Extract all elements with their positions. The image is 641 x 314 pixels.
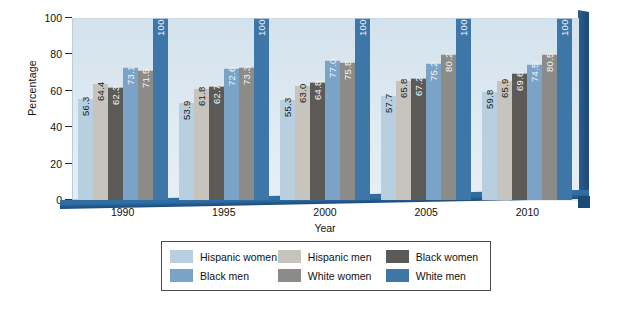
bar[interactable]: 56.3 (78, 98, 93, 200)
bar[interactable]: 80.5 (542, 54, 557, 201)
bar[interactable]: 65.8 (396, 80, 411, 200)
bar-fill (239, 67, 254, 200)
legend-item[interactable]: Hispanic women (170, 247, 278, 266)
bar-value-label: 80.2 (441, 57, 456, 72)
bar-fill (396, 80, 411, 200)
bar[interactable]: 100 (557, 18, 572, 200)
bar-value-label: 62.3 (108, 90, 123, 105)
x-axis-tick: 2000 (295, 206, 355, 218)
y-axis-tick: 100 (44, 12, 72, 24)
bar-value-label: 74.5 (527, 67, 542, 82)
legend-item[interactable]: Black men (170, 266, 278, 285)
bar-value-label: 72.6 (224, 71, 239, 86)
bar[interactable]: 57.7 (381, 95, 396, 200)
legend-swatch-icon (170, 269, 193, 282)
bar[interactable]: 77.0 (325, 60, 340, 200)
bar-value-label: 100 (557, 21, 572, 36)
bar[interactable]: 75.8 (340, 62, 355, 200)
bar-fill (426, 63, 441, 200)
bar[interactable]: 64.4 (93, 83, 108, 200)
bar-fill (340, 62, 355, 200)
bar[interactable]: 73.1 (123, 67, 138, 200)
bar[interactable]: 73.3 (239, 67, 254, 200)
bar-fill (527, 64, 542, 200)
bar[interactable]: 71.5 (138, 70, 153, 200)
bar[interactable]: 69.6 (512, 73, 527, 200)
bar-value-label: 64.4 (93, 86, 108, 101)
bar-group: 55.363.064.877.075.8100 (280, 18, 370, 200)
bar-value-label: 67.2 (411, 81, 426, 96)
bar-value-label: 100 (153, 21, 168, 36)
bar[interactable]: 80.2 (441, 54, 456, 200)
legend-label: Black women (416, 251, 478, 263)
bar-value-label: 59.8 (482, 94, 497, 109)
bar-value-label: 65.8 (396, 83, 411, 98)
bar[interactable]: 65.9 (497, 80, 512, 200)
legend-swatch-icon (170, 250, 193, 263)
bar-fill (557, 18, 572, 200)
x-axis-tick: 1995 (194, 206, 254, 218)
bar-fill (254, 18, 269, 200)
bar[interactable]: 62.3 (108, 87, 123, 200)
legend-row: Black menWhite womenWhite men (170, 266, 482, 285)
bar-value-label: 80.5 (542, 57, 557, 72)
x-axis-tick: 2005 (396, 206, 456, 218)
bar-fill (123, 67, 138, 200)
bar-group: 53.961.862.772.673.3100 (179, 18, 269, 200)
plot-right-bevel (578, 10, 589, 208)
legend-row: Hispanic womenHispanic menBlack women (170, 247, 482, 266)
legend-item[interactable]: Black women (386, 247, 482, 266)
bar[interactable]: 72.6 (224, 68, 239, 200)
bar-value-label: 100 (355, 21, 370, 36)
bar[interactable]: 64.8 (310, 82, 325, 200)
bar-fill (456, 18, 471, 200)
bar-value-label: 56.3 (78, 101, 93, 116)
x-axis-tick: 1990 (93, 206, 153, 218)
bar[interactable]: 53.9 (179, 102, 194, 200)
bar-fill (138, 70, 153, 200)
bar-group: 56.364.462.373.171.5100 (78, 18, 168, 200)
bar-value-label: 65.9 (497, 83, 512, 98)
legend-swatch-icon (386, 250, 409, 263)
bar-value-label: 63.0 (295, 88, 310, 103)
legend-label: Hispanic women (200, 251, 277, 263)
bar[interactable]: 62.7 (209, 86, 224, 200)
y-axis-tick-list: 020406080100 (30, 18, 72, 200)
bar[interactable]: 61.8 (194, 88, 209, 200)
bar-group: 59.865.969.674.580.5100 (482, 18, 572, 200)
bar-fill (441, 54, 456, 200)
bar[interactable]: 74.5 (527, 64, 542, 200)
bar-fill (411, 78, 426, 200)
bar[interactable]: 67.2 (411, 78, 426, 200)
x-axis-title: Year (72, 222, 578, 234)
bar-value-label: 53.9 (179, 105, 194, 120)
bar-fill (224, 68, 239, 200)
bar[interactable]: 75.2 (426, 63, 441, 200)
bar-fill (355, 18, 370, 200)
bar[interactable]: 100 (153, 18, 168, 200)
bar-value-label: 73.1 (123, 70, 138, 85)
legend-label: White women (308, 270, 372, 282)
bar[interactable]: 100 (355, 18, 370, 200)
plot-corner-bevel (578, 196, 590, 208)
legend-swatch-icon (278, 250, 301, 263)
bar[interactable]: 59.8 (482, 91, 497, 200)
bar-value-label: 77.0 (325, 63, 340, 78)
legend-item[interactable]: Hispanic men (278, 247, 386, 266)
bar-groups: 56.364.462.373.171.510053.961.862.772.67… (72, 18, 578, 200)
bar-value-label: 57.7 (381, 98, 396, 113)
bar-value-label: 55.3 (280, 102, 295, 117)
bar-chart: Percentage 020406080100 56.364.462.373.1… (0, 0, 641, 314)
legend-item[interactable]: White men (386, 266, 482, 285)
legend-item[interactable]: White women (278, 266, 386, 285)
legend-label: Hispanic men (308, 251, 372, 263)
bar-fill (325, 60, 340, 200)
bar[interactable]: 63.0 (295, 85, 310, 200)
bar-fill (497, 80, 512, 200)
bar[interactable]: 55.3 (280, 99, 295, 200)
bar[interactable]: 100 (254, 18, 269, 200)
bar[interactable]: 100 (456, 18, 471, 200)
bar-value-label: 71.5 (138, 73, 153, 88)
bar-value-label: 64.8 (310, 85, 325, 100)
legend-swatch-icon (386, 269, 409, 282)
